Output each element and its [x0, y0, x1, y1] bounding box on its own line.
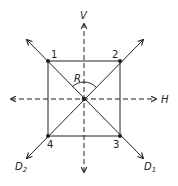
axis-label-d2: D2	[15, 161, 28, 174]
axis-label-h: H	[161, 94, 169, 105]
vertex-label-1: 1	[51, 49, 57, 60]
axis-label-d1: D1	[144, 161, 156, 174]
vertex-label-2: 2	[112, 49, 118, 60]
center-dot	[82, 97, 87, 102]
vertex-label-3: 3	[113, 139, 119, 150]
square-symmetry-diagram: 1 2 3 4 V H R D2 D1	[0, 0, 178, 186]
vertex-dot-1	[46, 59, 50, 63]
vertex-dot-3	[118, 134, 122, 138]
vertex-dot-4	[46, 134, 50, 138]
vertex-label-4: 4	[47, 139, 53, 150]
axis-label-v: V	[80, 10, 88, 21]
rotation-label-r: R	[74, 73, 81, 84]
vertex-dot-2	[118, 59, 122, 63]
